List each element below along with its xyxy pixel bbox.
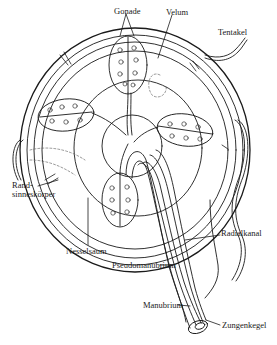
label-radialkanal: Radialkanal [221, 229, 262, 238]
label-gonade: Gonade [114, 7, 140, 16]
label-tentakel: Tentakel [218, 28, 247, 37]
gonad-bottom [102, 173, 138, 227]
label-nesselsaum: Nesselsaum [66, 247, 107, 256]
label-pseudomanubrium: Pseudomanubrium [112, 261, 176, 270]
label-randsinneskoerper-line2: sinneskörper [12, 190, 55, 199]
label-zungenkegel: Zungenkegel [222, 321, 266, 330]
gonad-left [36, 96, 95, 134]
label-manubrium: Manubrium [143, 301, 183, 310]
radial-canals [92, 93, 158, 174]
label-velum: Velum [166, 8, 188, 17]
medusa-diagram: Gonade Velum Tentakel Rand- sinneskörper… [0, 0, 277, 345]
medusa-drawing [0, 0, 277, 345]
gonad-top [109, 36, 147, 94]
gonad-right [155, 110, 215, 149]
tentacles [13, 38, 248, 298]
